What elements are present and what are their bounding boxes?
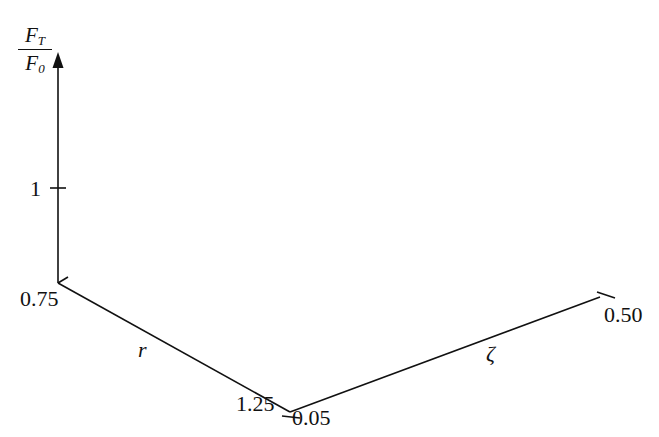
r-axis-tick-start [58,277,68,283]
zeta-axis-line [290,297,600,412]
zeta-max-label: 0.50 [604,304,643,326]
r-axis-name: r [138,339,147,361]
z-axis-arrow-icon [53,52,64,68]
r-min-label: 0.75 [20,288,59,310]
surface-plot [0,0,659,437]
r-max-label: 1.25 [236,393,275,415]
zeta-min-label: 0.05 [292,407,331,429]
z-tick-label-1: 1 [30,178,41,200]
zeta-axis-name: ζ [486,343,495,365]
axes [50,52,615,418]
fraction-bar [18,49,52,50]
z-axis-label-numerator: FT [18,25,52,47]
z-axis-label: FT F0 [18,25,52,75]
z-axis-label-denominator: F0 [18,53,52,75]
